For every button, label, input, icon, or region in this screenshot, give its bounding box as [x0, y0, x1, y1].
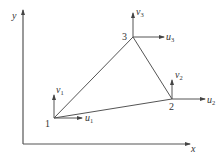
element-diagram: xy1u1v12u2v23u3v3 [0, 0, 222, 153]
v2-label: v2 [175, 69, 183, 81]
node-3-label: 3 [122, 31, 127, 42]
edge-3-1 [54, 37, 133, 118]
x-axis-label: x [190, 143, 196, 153]
labels: xy1u1v12u2v23u3v3 [11, 6, 215, 153]
u3-label: u3 [166, 31, 174, 43]
u1-label: u1 [85, 112, 93, 124]
edge-1-2 [54, 99, 172, 118]
y-axis-label: y [11, 10, 17, 21]
node-2-label: 2 [169, 101, 174, 112]
v3-label: v3 [136, 6, 144, 18]
triangle-edges [54, 37, 172, 118]
u2-label: u2 [207, 94, 215, 106]
v1-label: v1 [56, 84, 64, 96]
displacement-arrows [54, 13, 205, 118]
node-1-label: 1 [45, 118, 50, 129]
edge-2-3 [133, 37, 172, 99]
